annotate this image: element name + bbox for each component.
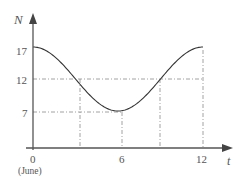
x-axis-arrow-icon — [222, 144, 233, 152]
y-tick-17: 17 — [16, 45, 28, 57]
y-axis-label: N — [13, 12, 24, 27]
y-tick-7: 7 — [22, 107, 28, 119]
y-tick-12: 12 — [16, 74, 27, 86]
x-tick-june: (June) — [18, 166, 42, 177]
x-axis-label: t — [227, 154, 231, 168]
x-tick-6: 6 — [119, 153, 125, 165]
chart: N t 17 12 7 0 (June) 6 12 — [0, 0, 243, 181]
y-axis-arrow-icon — [29, 13, 37, 24]
x-tick-12: 12 — [196, 153, 207, 165]
reference-lines — [33, 50, 203, 148]
x-tick-0: 0 — [30, 153, 36, 165]
